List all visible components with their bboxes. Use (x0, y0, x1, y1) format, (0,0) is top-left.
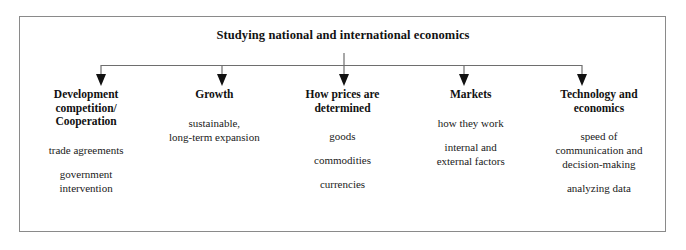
branch-item: sustainable, long-term expansion (152, 116, 276, 144)
branch-columns: Development competition/ Cooperation tra… (22, 88, 663, 195)
branch-heading: Markets (409, 88, 533, 102)
branch-item-list: sustainable, long-term expansion (152, 116, 276, 144)
branch-item: internal and external factors (409, 140, 533, 168)
branch-item: government intervention (24, 167, 148, 195)
diagram-page: Studying national and international econ… (0, 0, 686, 250)
branch-item-list: goods commodities currencies (280, 129, 404, 191)
branch-item: trade agreements (24, 143, 148, 157)
branch-technology: Technology and economics speed of commun… (535, 88, 663, 195)
branch-heading: Technology and economics (537, 88, 661, 115)
branch-prices: How prices are determined goods commodit… (278, 88, 406, 191)
diagram-title: Studying national and international econ… (0, 28, 686, 43)
branch-heading: How prices are determined (280, 88, 404, 115)
branch-item: commodities (280, 153, 404, 167)
branch-development: Development competition/ Cooperation tra… (22, 88, 150, 195)
branch-item: analyzing data (537, 181, 661, 195)
branch-heading: Development competition/ Cooperation (24, 88, 148, 129)
branch-item-list: how they work internal and external fact… (409, 116, 533, 168)
branch-item: goods (280, 129, 404, 143)
branch-item: currencies (280, 177, 404, 191)
branch-item: speed of communication and decision-maki… (537, 129, 661, 171)
branch-heading: Growth (152, 88, 276, 102)
branch-item: how they work (409, 116, 533, 130)
branch-item-list: trade agreements government intervention (24, 143, 148, 195)
branch-item-list: speed of communication and decision-maki… (537, 129, 661, 195)
branch-markets: Markets how they work internal and exter… (407, 88, 535, 168)
branch-growth: Growth sustainable, long-term expansion (150, 88, 278, 144)
